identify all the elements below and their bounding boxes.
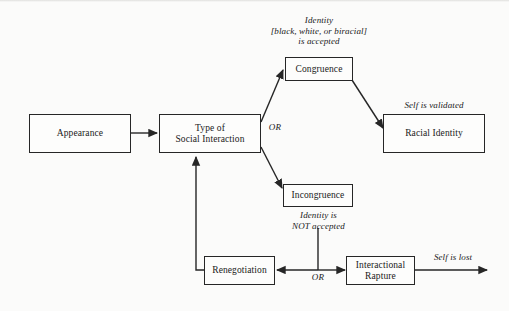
- node-renegotiation-label: Renegotiation: [212, 265, 267, 276]
- node-renegotiation[interactable]: Renegotiation: [204, 256, 275, 285]
- node-interaction-label-line1: Type of: [175, 123, 244, 134]
- edge-renegotiation-feedback-to-interaction: [196, 157, 204, 270]
- edge-label-self-is-validated: Self is validated: [383, 100, 485, 111]
- node-congruence-label: Congruence: [296, 64, 343, 75]
- edge-interaction-to-congruence: [261, 70, 283, 122]
- node-appearance[interactable]: Appearance: [29, 114, 131, 153]
- node-racial-identity-label: Racial Identity: [405, 128, 463, 139]
- or-label-branch-bottom: OR: [307, 272, 329, 282]
- or-label-branch-top: OR: [264, 122, 286, 132]
- flow-diagram: Appearance Type of Social Interaction Co…: [0, 0, 509, 311]
- node-rapture-label-line2: Rapture: [356, 271, 405, 282]
- edge-label-identity-not-accepted: Identity is NOT accepted: [272, 210, 365, 231]
- edge-label-identity-accepted: Identity [black, white, or biracial] is …: [239, 15, 399, 47]
- node-incongruence-label: Incongruence: [292, 190, 345, 201]
- node-interactional-rapture[interactable]: Interactional Rapture: [346, 256, 415, 285]
- node-racial-identity[interactable]: Racial Identity: [383, 114, 485, 153]
- edge-congruence-to-racial-identity: [352, 80, 383, 128]
- node-interaction-label-line2: Social Interaction: [175, 134, 244, 145]
- node-incongruence[interactable]: Incongruence: [283, 184, 353, 207]
- node-congruence[interactable]: Congruence: [285, 57, 353, 81]
- edge-label-self-is-lost: Self is lost: [415, 252, 491, 263]
- edge-interaction-to-incongruence: [261, 147, 282, 188]
- node-rapture-label-line1: Interactional: [356, 260, 405, 271]
- node-type-of-social-interaction[interactable]: Type of Social Interaction: [159, 114, 261, 153]
- node-appearance-label: Appearance: [57, 128, 103, 139]
